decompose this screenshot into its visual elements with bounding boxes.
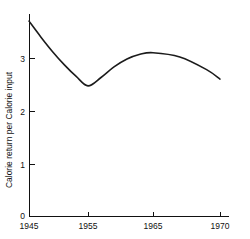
y-tick-label-2: 2 bbox=[20, 107, 25, 117]
x-axis-ticks bbox=[89, 212, 221, 217]
y-axis-tick-labels: 3 2 1 0 bbox=[20, 54, 25, 222]
y-tick-label-3: 3 bbox=[20, 54, 25, 64]
line-chart-canvas: Calorie return per Calorie input 3 2 1 0… bbox=[0, 0, 250, 239]
y-tick-label-0: 0 bbox=[20, 211, 25, 221]
y-tick-label-1: 1 bbox=[20, 160, 25, 170]
x-tick-label-1955: 1955 bbox=[79, 221, 98, 231]
y-axis-ticks bbox=[30, 59, 35, 165]
chart-figure: Calorie return per Calorie input 3 2 1 0… bbox=[0, 0, 250, 239]
x-tick-label-1965: 1965 bbox=[144, 221, 163, 231]
x-tick-label-1970: 1970 bbox=[211, 221, 230, 231]
y-axis-title: Calorie return per Calorie input bbox=[4, 71, 14, 188]
data-series-line bbox=[29, 21, 220, 86]
x-axis-tick-labels: 1945 1955 1965 1970 bbox=[20, 221, 230, 231]
x-tick-label-1945: 1945 bbox=[20, 221, 39, 231]
